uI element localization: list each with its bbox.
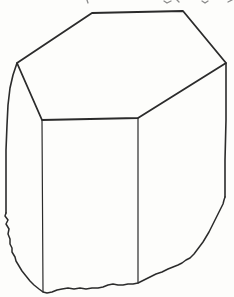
book-page xyxy=(0,0,234,297)
front-left-edge xyxy=(42,120,43,292)
cropped-descender-2 xyxy=(164,1,171,3)
fracture-outline xyxy=(5,197,225,293)
cropped-descender-4 xyxy=(202,1,208,3)
left-outer-edge xyxy=(6,63,17,213)
right-outer-edge xyxy=(225,63,226,197)
cropped-descender-5 xyxy=(228,0,232,2)
top-face-outline xyxy=(17,11,226,120)
crystal-figure xyxy=(0,0,234,297)
cropped-descender-3 xyxy=(177,0,179,2)
cropped-descender-1 xyxy=(87,0,88,3)
